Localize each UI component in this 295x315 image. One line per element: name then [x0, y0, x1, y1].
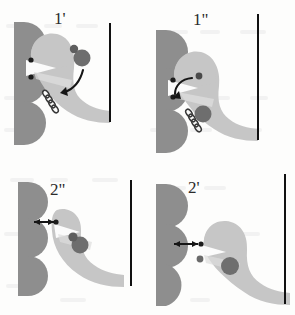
anchor-dot-upper: [53, 219, 58, 224]
panel-grid: 1': [0, 0, 295, 315]
panel-label-2-double-prime: 2": [50, 180, 65, 200]
panel-label-1-prime: 1': [54, 9, 66, 29]
panel-1-double-prime: 1": [148, 0, 295, 158]
anchor-dot-upper: [198, 241, 203, 246]
anchor-dot-lower: [197, 256, 204, 263]
scalloped-wall: [18, 182, 48, 296]
panel-1-prime: 1': [0, 0, 148, 158]
ligand-particle: [195, 106, 212, 123]
panel-label-2-prime: 2': [188, 178, 200, 198]
panel-2-prime: 2': [148, 158, 295, 315]
anchor-dot-upper: [28, 57, 33, 62]
ligand-particle: [221, 257, 239, 275]
panel-2-double-prime: 2": [0, 158, 148, 315]
satellite-dot: [196, 73, 203, 80]
panel-label-1-double-prime: 1": [193, 10, 208, 30]
figure-root: 1': [0, 0, 295, 315]
anchor-dot-lower: [28, 74, 33, 79]
anchor-dot-upper: [170, 77, 175, 82]
